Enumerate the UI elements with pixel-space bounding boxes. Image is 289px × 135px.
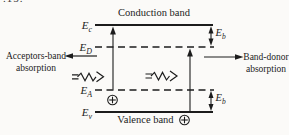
level-label-ev-sub: v	[88, 112, 92, 121]
level-label-ea: EA	[58, 84, 92, 101]
donor-binding-energy-arrow-icon	[209, 26, 214, 45]
acceptor-binding-energy-arrow-icon	[209, 91, 214, 111]
binding-energy-label-top: Eb	[216, 27, 226, 41]
level-label-ea-sub: A	[87, 90, 92, 99]
band-diagram: .15.	[0, 0, 289, 135]
acceptors-absorption-line1: Acceptors-band	[1, 50, 71, 63]
level-label-ec-sub: c	[88, 25, 92, 34]
acceptors-absorption-line2: absorption	[1, 62, 71, 75]
band-donor-absorption-line1: Band-donor	[243, 51, 289, 64]
donor-direction-arrow-icon	[204, 54, 244, 59]
photon-wavy-arrow-right-icon	[146, 71, 178, 81]
valence-band-label: Valence band	[103, 114, 188, 125]
hole-plus-acceptor-icon	[108, 95, 118, 105]
band-donor-absorption-line2: absorption	[243, 63, 289, 76]
band-donor-absorption-label: Band-donor absorption	[243, 51, 289, 76]
photon-wavy-arrow-left-icon	[72, 72, 104, 82]
binding-energy-top-sub: b	[222, 32, 226, 41]
binding-energy-bottom-sub: b	[222, 97, 226, 106]
acceptor-to-conduction-arrow-icon	[110, 27, 116, 90]
conduction-band-label: Conduction band	[95, 7, 213, 18]
acceptors-absorption-label: Acceptors-band absorption	[1, 50, 71, 75]
binding-energy-label-bottom: Eb	[216, 92, 226, 106]
level-label-ed-sub: D	[86, 47, 92, 56]
valence-to-donor-arrow-icon	[187, 49, 193, 112]
level-label-ev: Ev	[58, 106, 92, 123]
level-label-ec: Ec	[58, 19, 92, 36]
